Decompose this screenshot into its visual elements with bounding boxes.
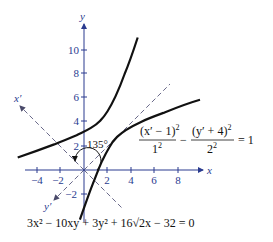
svg-text:−: − bbox=[180, 133, 187, 147]
standard-form-equation: (x′ − 1)2 12 − (y′ + 4)2 22 = 1 bbox=[139, 123, 254, 156]
svg-text:10: 10 bbox=[68, 44, 80, 56]
svg-text:−4: −4 bbox=[31, 174, 43, 186]
svg-text:(y′ + 4)2: (y′ + 4)2 bbox=[192, 123, 231, 138]
svg-text:6: 6 bbox=[74, 91, 80, 103]
rotation-angle-label: 135° bbox=[87, 138, 108, 150]
hyperbola-figure: −4 −2 2 4 6 8 −2 2 4 6 8 10 x y x′ y′ 13… bbox=[0, 0, 273, 242]
svg-text:4: 4 bbox=[128, 174, 134, 186]
svg-text:−2: −2 bbox=[52, 174, 64, 186]
y-axis-label: y bbox=[79, 10, 85, 22]
general-equation: 3x² − 10xy + 3y² + 16√2x − 32 = 0 bbox=[27, 216, 195, 230]
svg-text:= 1: = 1 bbox=[238, 133, 254, 147]
svg-text:8: 8 bbox=[175, 174, 181, 186]
hyperbola-branch-lower-right bbox=[80, 100, 200, 220]
x-axis-label: x bbox=[206, 164, 212, 176]
svg-text:8: 8 bbox=[74, 67, 80, 79]
y-prime-axis-label: y′ bbox=[43, 200, 52, 212]
svg-text:22: 22 bbox=[207, 141, 217, 156]
x-tick-labels: −4 −2 2 4 6 8 bbox=[31, 174, 181, 186]
svg-text:2: 2 bbox=[104, 174, 110, 186]
svg-text:12: 12 bbox=[152, 141, 162, 156]
x-prime-axis-label: x′ bbox=[13, 92, 22, 104]
rotation-angle-arc bbox=[75, 148, 101, 170]
svg-text:(x′ − 1)2: (x′ − 1)2 bbox=[140, 123, 179, 138]
svg-text:−2: −2 bbox=[65, 188, 77, 200]
svg-text:4: 4 bbox=[74, 115, 80, 127]
svg-text:2: 2 bbox=[74, 140, 80, 152]
svg-text:6: 6 bbox=[151, 174, 157, 186]
